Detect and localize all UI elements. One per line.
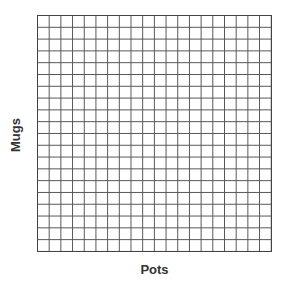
blank-coordinate-grid	[37, 15, 272, 252]
x-axis-label: Pots	[37, 262, 272, 277]
y-axis-label: Mugs	[8, 118, 23, 152]
